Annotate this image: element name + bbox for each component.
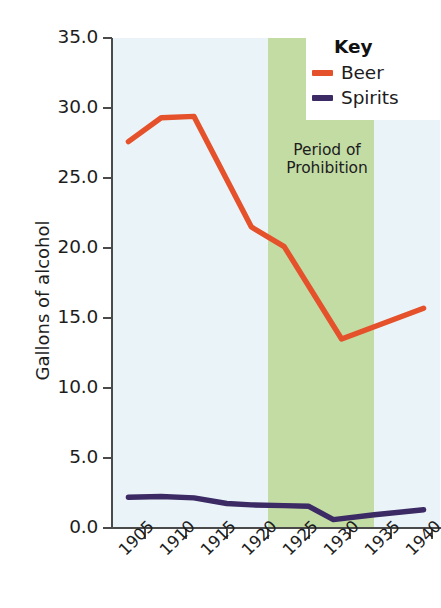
- y-tick-mark: [103, 387, 112, 389]
- legend-entry: Spirits: [312, 87, 440, 108]
- y-tick-mark: [103, 317, 112, 319]
- y-tick-label-holder: 5.0: [20, 446, 98, 470]
- y-tick-label-holder: 30.0: [20, 96, 98, 120]
- line-series-beer: [128, 116, 423, 339]
- y-tick-mark: [103, 527, 112, 529]
- y-tick-label: 30.0: [34, 96, 98, 117]
- legend-swatch-icon: [312, 95, 333, 101]
- y-tick-label: 0.0: [34, 516, 98, 537]
- y-tick-mark: [103, 107, 112, 109]
- chart-figure: Period of Prohibition 0.05.010.015.020.0…: [0, 0, 441, 608]
- legend-entry-label: Beer: [341, 62, 384, 83]
- legend-title: Key: [334, 36, 440, 57]
- y-tick-label-holder: 0.0: [20, 516, 98, 540]
- y-tick-label: 5.0: [34, 446, 98, 467]
- y-tick-mark: [103, 457, 112, 459]
- line-series-spirits: [128, 497, 423, 520]
- y-tick-mark: [103, 37, 112, 39]
- y-tick-mark: [103, 177, 112, 179]
- y-tick-label: 25.0: [34, 166, 98, 187]
- legend-entry: Beer: [312, 62, 440, 83]
- y-tick-label-holder: 35.0: [20, 26, 98, 50]
- y-tick-label-holder: 25.0: [20, 166, 98, 190]
- y-axis-line: [111, 38, 113, 529]
- y-axis-title: Gallons of alcohol: [32, 201, 53, 401]
- legend-entries: BeerSpirits: [312, 62, 440, 108]
- legend-entry-label: Spirits: [341, 87, 399, 108]
- legend: Key BeerSpirits: [306, 30, 441, 120]
- y-tick-mark: [103, 247, 112, 249]
- legend-swatch-icon: [312, 70, 333, 76]
- y-tick-label: 35.0: [34, 26, 98, 47]
